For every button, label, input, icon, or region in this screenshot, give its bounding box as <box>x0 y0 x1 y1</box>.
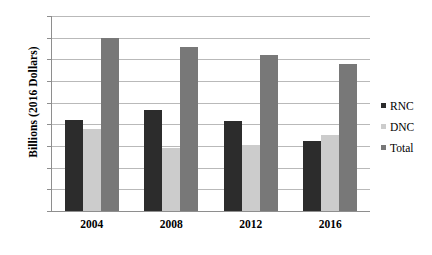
bar-total-2012 <box>260 55 278 211</box>
bar-total-2004 <box>101 38 119 211</box>
bar-rnc-2016 <box>303 141 321 211</box>
gridline <box>52 211 370 212</box>
x-tick-label: 2016 <box>291 218 371 230</box>
legend-item-dnc: DNC <box>381 116 431 137</box>
legend-item-total: Total <box>381 137 431 158</box>
chart-legend: RNC DNC Total <box>381 95 431 158</box>
legend-swatch-icon-rnc <box>381 103 386 108</box>
legend-item-rnc: RNC <box>381 95 431 116</box>
x-tick-label: 2012 <box>211 218 291 230</box>
bar-group: 2004 <box>52 16 132 211</box>
y-axis-title: Billions (2016 Dollars) <box>27 17 39 187</box>
legend-label-total: Total <box>390 142 413 154</box>
bar-dnc-2004 <box>83 129 101 211</box>
legend-label-dnc: DNC <box>390 121 414 133</box>
bar-dnc-2012 <box>242 145 260 211</box>
bar-chart: Billions (2016 Dollars) 0100200300400500… <box>0 0 432 255</box>
x-tick-label: 2008 <box>132 218 212 230</box>
bar-total-2008 <box>180 47 198 211</box>
bar-dnc-2016 <box>321 135 339 211</box>
bar-group: 2016 <box>291 16 371 211</box>
legend-swatch-icon-total <box>381 145 386 150</box>
bar-rnc-2004 <box>65 120 83 211</box>
bar-group: 2008 <box>132 16 212 211</box>
bar-dnc-2008 <box>162 148 180 211</box>
bar-rnc-2012 <box>224 121 242 211</box>
bar-total-2016 <box>339 64 357 211</box>
y-tick-mark <box>47 211 52 212</box>
bar-rnc-2008 <box>144 110 162 211</box>
legend-swatch-icon-dnc <box>381 124 386 129</box>
bar-groups: 2004200820122016 <box>52 16 370 211</box>
legend-label-rnc: RNC <box>390 100 414 112</box>
bar-group: 2012 <box>211 16 291 211</box>
plot-area: 0100200300400500600700800900 20042008201… <box>52 16 370 211</box>
x-tick-label: 2004 <box>52 218 132 230</box>
